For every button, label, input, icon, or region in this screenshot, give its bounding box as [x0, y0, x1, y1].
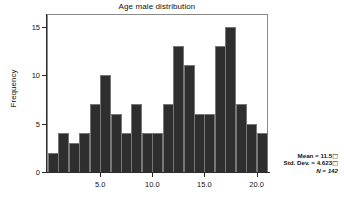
x-tick	[100, 172, 101, 177]
histogram-bar	[215, 46, 226, 172]
histogram-bar	[131, 104, 142, 172]
histogram-bar	[204, 114, 215, 172]
n-label: N = 142	[272, 167, 338, 174]
histogram-bar	[48, 153, 59, 172]
histogram-bar	[79, 133, 90, 172]
x-axis-line	[46, 172, 270, 173]
histogram-figure: Age male distribution 051015 5.010.015.0…	[0, 0, 344, 211]
box-glyph-icon: □	[332, 159, 338, 166]
y-tick	[42, 75, 47, 76]
y-tick	[42, 172, 47, 173]
y-tick-label: 5	[36, 120, 40, 129]
histogram-bar	[225, 27, 236, 172]
histogram-bar	[69, 143, 80, 172]
y-tick-label: 0	[36, 168, 40, 177]
histogram-bar	[121, 133, 132, 172]
box-glyph-icon: □	[332, 152, 338, 159]
histogram-bar	[100, 75, 111, 172]
x-tick-label: 10.0	[137, 180, 167, 189]
histogram-bar	[111, 114, 122, 172]
histogram-bar	[184, 65, 195, 172]
x-tick-label: 15.0	[189, 180, 219, 189]
histogram-bar	[236, 104, 247, 172]
histogram-bar	[173, 46, 184, 172]
x-tick	[257, 172, 258, 177]
x-tick-label: 20.0	[242, 180, 272, 189]
y-tick	[42, 27, 47, 28]
y-tick-label: 10	[32, 71, 40, 80]
histogram-bar	[257, 133, 268, 172]
y-axis-title: Frequency	[9, 54, 18, 124]
y-axis-line	[46, 14, 47, 173]
statistics-annotation: Mean = 11.5□ Std. Dev. = 4.623□ N = 142	[272, 152, 338, 174]
x-tick	[204, 172, 205, 177]
std-dev-label: Std. Dev. = 4.623□	[272, 159, 338, 166]
y-tick-label: 15	[32, 23, 40, 32]
histogram-bar	[194, 114, 205, 172]
histogram-bar	[90, 104, 101, 172]
histogram-bar	[163, 104, 174, 172]
histogram-bar	[142, 133, 153, 172]
x-tick	[152, 172, 153, 177]
bar-series	[48, 15, 267, 172]
histogram-bar	[58, 133, 69, 172]
mean-label: Mean = 11.5□	[272, 152, 338, 159]
y-tick	[42, 124, 47, 125]
histogram-bar	[246, 124, 257, 172]
histogram-bar	[152, 133, 163, 172]
chart-title: Age male distribution	[47, 2, 267, 11]
x-tick-label: 5.0	[85, 180, 115, 189]
